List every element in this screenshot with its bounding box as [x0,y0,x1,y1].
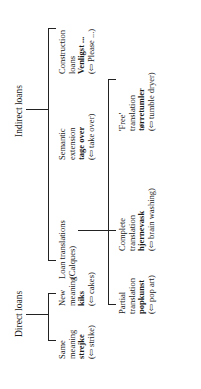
node-partial-translation: Partial translation popkunst (⇦ pop art) [118,275,156,314]
gloss: (⇦ Please ...) [87,29,97,74]
connector [48,260,56,261]
connector [108,80,109,305]
connector [108,304,116,305]
node-construction-loans: Construction loans Venligst ... (⇦ Pleas… [58,29,96,74]
gloss: (⇦ brain washing) [147,188,157,251]
label: Direct loans [14,291,24,337]
connector [26,314,48,315]
gloss: (⇦ take over) [87,114,97,160]
connector [26,109,48,110]
connector [108,230,116,231]
node-indirect-loans: Indirect loans [14,85,24,137]
connector [48,28,56,29]
connector [48,340,56,341]
connector [48,293,49,341]
label: Indirect loans [14,85,24,137]
gloss: (⇦ cakes) [87,272,97,306]
gloss: (⇦ tumble dryer) [147,72,157,131]
gloss: (⇦ strike) [87,325,97,359]
connector [48,293,56,294]
node-loan-translations: Loan translations (Calques) [58,220,77,279]
connector [78,230,108,231]
node-direct-loans: Direct loans [14,291,24,337]
node-semantic-extension: Semantic extension tage over (⇦ take ove… [58,114,96,160]
connector [108,79,116,80]
loan-types-diagram: Direct loans Same meaning strejke (⇦ str… [0,0,201,389]
node-complete-translation: Complete translation hjernevask (⇦ brain… [118,188,156,251]
label: (Calques) [68,220,78,279]
gloss: (⇦ pop art) [147,275,157,314]
connector [48,28,49,261]
node-free-translation: 'Free' translation tørretumler (⇦ tumble… [118,72,156,131]
node-same-meaning: Same meaning strejke (⇦ strike) [58,325,96,359]
